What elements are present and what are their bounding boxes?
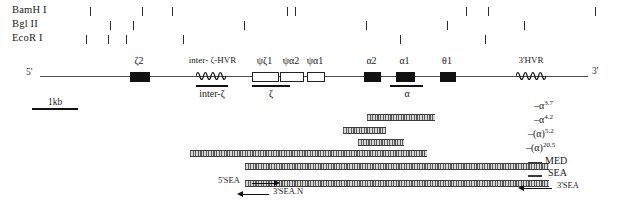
deletion-label: MED [545, 155, 567, 166]
restriction-site-tick [400, 35, 401, 44]
sea-primer-arrow-head [237, 191, 243, 197]
deletion-bar [245, 163, 549, 170]
gene-box [280, 72, 304, 82]
restriction-site-tick [126, 35, 127, 44]
scale-bar-label: 1kb [32, 97, 78, 107]
deletion-label: –α4.2 [534, 113, 553, 125]
restriction-site-tick [108, 35, 109, 44]
restriction-site-tick [133, 21, 134, 30]
gene-label: θ1 [424, 55, 470, 66]
restriction-site-tick [142, 7, 143, 16]
hvr-region-label: inter- ζ-HVR [170, 55, 255, 65]
restriction-site-tick [595, 7, 596, 16]
restriction-site-tick [287, 7, 288, 16]
probe-label: ζ [243, 88, 299, 99]
restriction-site-tick [366, 21, 367, 30]
restriction-site-tick [110, 21, 111, 30]
enzyme-row-ecori: EcoR I [0, 32, 621, 45]
restriction-site-tick [524, 21, 525, 30]
hvr-zigzag-icon [516, 70, 546, 81]
restriction-site-tick [244, 21, 245, 30]
gene-box [396, 72, 415, 82]
five-prime-label: 5' [26, 67, 32, 77]
gene-box [364, 72, 381, 82]
deletion-label: SEA [548, 167, 567, 178]
restriction-site-tick [90, 7, 91, 16]
deletion-leader-dash [528, 175, 542, 177]
sea-primer-label: 5'SEA [218, 175, 240, 185]
sea-primer-arrow-head [518, 185, 524, 191]
enzyme-label-bamhi: BamH I [12, 4, 47, 15]
deletion-label: –(α)5.2 [528, 127, 554, 139]
sea-primer-arrow-line [524, 188, 552, 189]
restriction-site-tick [172, 7, 173, 16]
probe-label: α [383, 88, 431, 99]
restriction-site-tick [295, 7, 296, 16]
gene-box [307, 72, 325, 82]
restriction-site-tick [485, 35, 486, 44]
deletion-bar [358, 139, 404, 146]
sea-primer-arrow-line [252, 183, 274, 184]
enzyme-label-ecori: EcoR I [12, 32, 43, 43]
deletion-label: –α3.7 [534, 99, 553, 111]
enzyme-label-bglii: Bgl II [12, 18, 38, 29]
gene-box [252, 72, 279, 82]
probe-bar [196, 85, 228, 87]
scale-bar: 1kb [32, 97, 78, 110]
restriction-site-tick [447, 21, 448, 30]
deletion-bar [190, 150, 427, 157]
gene-box [130, 72, 150, 82]
restriction-site-tick [466, 7, 467, 16]
three-prime-label: 3' [592, 66, 598, 76]
gene-label: ζ2 [114, 55, 164, 66]
enzyme-row-bglii: Bgl II [0, 18, 621, 31]
scale-bar-line [32, 108, 78, 110]
deletion-bar [343, 127, 386, 134]
hvr-zigzag-icon [196, 70, 226, 81]
probe-bar [390, 85, 423, 87]
restriction-site-tick [183, 35, 184, 44]
sea-primer-arrow-line [243, 194, 269, 195]
gene-box [440, 72, 456, 82]
restriction-site-tick [488, 7, 489, 16]
gene-label: ψα1 [291, 55, 339, 66]
deletion-bar [367, 114, 435, 121]
deletion-leader-dash [528, 162, 542, 164]
sea-primer-label: 3'SEA.N [273, 186, 303, 196]
restriction-site-tick [86, 35, 87, 44]
deletion-label: –(α)20.5 [526, 141, 555, 153]
gene-map-figure: BamH I Bgl II EcoR I 5' 3' ζ2ψζ1ψα2ψα1α2… [0, 0, 621, 203]
enzyme-row-bamhi: BamH I [0, 4, 621, 17]
sea-primer-label: 3'SEA [557, 180, 579, 190]
probe-label: inter-ζ [176, 88, 248, 99]
probe-bar [252, 85, 290, 87]
gene-label: α1 [380, 55, 429, 66]
hvr-region-label: 3'HVR [500, 55, 562, 65]
